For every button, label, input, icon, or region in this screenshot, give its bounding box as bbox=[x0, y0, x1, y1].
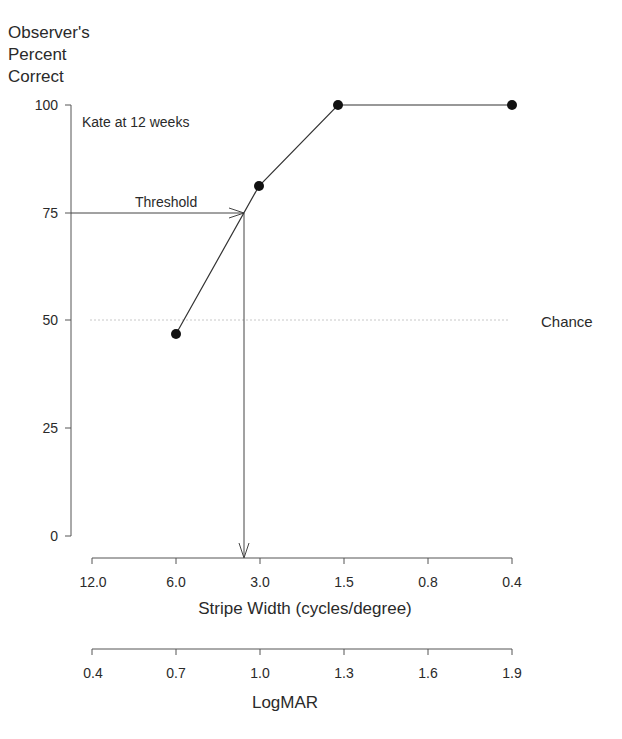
x2-tick: 0.7 bbox=[166, 665, 186, 681]
data-point bbox=[333, 100, 343, 110]
y-tick-labels: 100 75 50 25 0 bbox=[35, 97, 59, 544]
x-axis bbox=[92, 558, 512, 564]
y-axis bbox=[65, 105, 71, 536]
x2-tick: 1.0 bbox=[250, 665, 270, 681]
data-markers bbox=[171, 100, 517, 339]
subject-label: Kate at 12 weeks bbox=[82, 114, 189, 130]
y-axis-title-line1: Observer's bbox=[8, 23, 90, 42]
x-axis-title: Stripe Width (cycles/degree) bbox=[198, 599, 412, 618]
x-tick: 12.0 bbox=[79, 574, 106, 590]
x2-tick: 1.6 bbox=[418, 665, 438, 681]
x2-tick-labels: 0.4 0.7 1.0 1.3 1.6 1.9 bbox=[83, 665, 522, 681]
data-point bbox=[171, 329, 181, 339]
x-tick: 1.5 bbox=[334, 574, 354, 590]
x-tick: 0.4 bbox=[502, 574, 522, 590]
threshold-arrows bbox=[71, 208, 249, 558]
x2-tick: 0.4 bbox=[83, 665, 103, 681]
data-point bbox=[254, 181, 264, 191]
psychometric-chart: Observer's Percent Correct 100 75 50 25 … bbox=[0, 0, 622, 739]
x-tick: 6.0 bbox=[166, 574, 186, 590]
x-tick: 3.0 bbox=[250, 574, 270, 590]
threshold-label: Threshold bbox=[135, 194, 197, 210]
x2-tick: 1.3 bbox=[334, 665, 354, 681]
x2-axis-title: LogMAR bbox=[252, 693, 318, 712]
y-tick-0: 0 bbox=[50, 528, 58, 544]
x2-tick: 1.9 bbox=[502, 665, 522, 681]
x-tick: 0.8 bbox=[418, 574, 438, 590]
data-series-line bbox=[176, 105, 512, 334]
x-tick-labels: 12.0 6.0 3.0 1.5 0.8 0.4 bbox=[79, 574, 522, 590]
y-tick-50: 50 bbox=[42, 312, 58, 328]
data-point bbox=[507, 100, 517, 110]
y-tick-75: 75 bbox=[42, 205, 58, 221]
x2-axis bbox=[92, 649, 512, 655]
y-tick-100: 100 bbox=[35, 97, 59, 113]
y-axis-title-line3: Correct bbox=[8, 67, 64, 86]
chance-label: Chance bbox=[541, 313, 593, 330]
y-axis-title-line2: Percent bbox=[8, 45, 67, 64]
y-tick-25: 25 bbox=[42, 420, 58, 436]
